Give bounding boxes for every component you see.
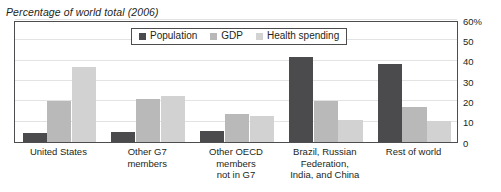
bar	[289, 57, 313, 142]
y-axis-tick-label: 20	[463, 98, 474, 108]
legend-label: Health spending	[267, 31, 339, 41]
legend-swatch-icon	[210, 33, 217, 40]
y-axis-tick-label: 10	[463, 118, 474, 128]
x-axis-category-line: Rest of world	[355, 146, 472, 158]
legend-item: GDP	[210, 31, 243, 41]
legend-item: Health spending	[256, 31, 339, 41]
bar	[161, 96, 185, 142]
bar-group	[15, 22, 104, 142]
legend-item: Population	[139, 31, 197, 41]
bar	[200, 131, 224, 142]
gridline	[15, 19, 457, 20]
bar	[378, 64, 402, 142]
x-axis-category-line: India, and China	[266, 169, 383, 181]
y-axis-labels: 60%50403020100	[463, 21, 501, 143]
legend-label: GDP	[221, 31, 243, 41]
y-axis-tick-label: 30	[463, 77, 474, 87]
bar	[250, 116, 274, 142]
bar	[111, 132, 135, 142]
bar	[427, 121, 451, 142]
bar	[338, 120, 362, 142]
bar-group	[370, 22, 459, 142]
chart-legend: PopulationGDPHealth spending	[131, 28, 347, 45]
y-axis-tick-label: 60%	[463, 16, 482, 26]
x-axis-category-label: Rest of world	[355, 146, 472, 158]
bar	[136, 99, 160, 142]
legend-swatch-icon	[139, 33, 146, 40]
bar	[314, 101, 338, 142]
chart-figure: Percentage of world total (2006) Populat…	[0, 0, 501, 192]
bar	[23, 133, 47, 142]
legend-swatch-icon	[256, 33, 263, 40]
x-axis-category-line: Federation,	[266, 158, 383, 170]
x-axis-labels: United StatesOther G7membersOther OECDme…	[14, 146, 458, 192]
y-axis-tick-label: 50	[463, 37, 474, 47]
bar	[225, 114, 249, 142]
legend-label: Population	[150, 31, 197, 41]
bar	[47, 101, 71, 142]
bar	[402, 107, 426, 142]
bar	[72, 67, 96, 142]
y-axis-tick-label: 40	[463, 57, 474, 67]
chart-title: Percentage of world total (2006)	[6, 6, 159, 18]
